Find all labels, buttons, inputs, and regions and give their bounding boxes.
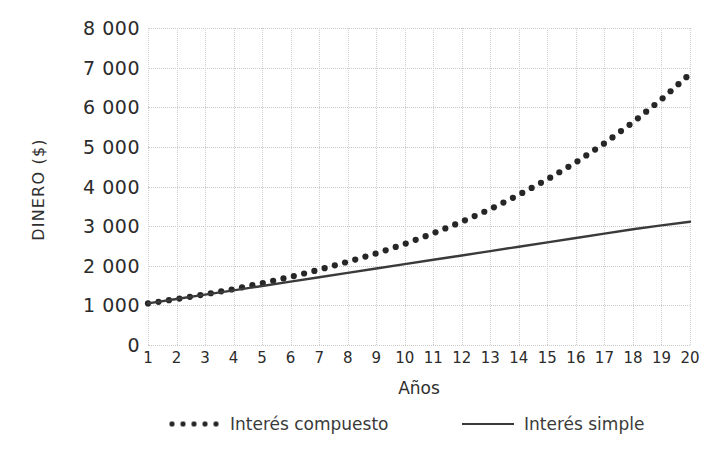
y-axis-tick-label: 6 000 [83,96,140,118]
x-axis-tick-label: 13 [481,349,500,367]
y-axis-tick-label: 2 000 [83,255,140,277]
plot-area [148,28,690,345]
x-axis-tick-label: 3 [200,349,210,367]
chart-legend: Interés compuesto Interés simple [0,414,728,444]
x-axis-tick-label: 16 [566,349,585,367]
x-axis-tick-label: 7 [314,349,324,367]
x-axis-tick-label: 8 [343,349,353,367]
x-axis-tick-label: 10 [395,349,414,367]
legend-item-compound: Interés compuesto [168,414,389,434]
x-axis-title: Años [148,378,690,398]
y-axis-tick-label: 7 000 [83,57,140,79]
y-axis-tick-label: 3 000 [83,215,140,237]
x-axis-tick-label: 5 [257,349,267,367]
x-axis-tick-label: 1 [143,349,153,367]
x-axis-tick-label: 2 [172,349,182,367]
series-simple-interest [148,222,690,304]
x-axis-tick-label: 12 [452,349,471,367]
y-axis-tick-label: 1 000 [83,294,140,316]
x-axis-tick-label: 11 [424,349,443,367]
legend-label-simple: Interés simple [524,414,644,434]
y-axis-tick-label: 0 [127,334,140,356]
solid-line-marker-icon [462,423,514,425]
legend-label-compound: Interés compuesto [230,414,389,434]
y-axis-tick-label: 4 000 [83,176,140,198]
chart-container: DINERO ($) 01 0002 0003 0004 0005 0006 0… [0,0,728,455]
legend-item-simple: Interés simple [462,414,644,434]
x-axis-tick-label: 20 [680,349,699,367]
x-axis-tick-label: 18 [623,349,642,367]
y-axis-tick-labels: 01 0002 0003 0004 0005 0006 0007 0008 00… [40,0,140,455]
x-axis-tick-label: 15 [538,349,557,367]
y-axis-tick-label: 5 000 [83,136,140,158]
gridline-horizontal [148,345,690,346]
series-layer [148,28,690,345]
x-axis-tick-label: 4 [229,349,239,367]
x-axis-tick-label: 6 [286,349,296,367]
dotted-line-marker-icon [168,421,220,427]
x-axis-tick-label: 14 [509,349,528,367]
x-axis-tick-label: 17 [595,349,614,367]
gridline-vertical [690,28,691,345]
series-compound-interest [145,74,690,306]
x-axis-tick-labels: 1234567891011121314151617181920 [148,349,690,373]
x-axis-tick-label: 9 [371,349,381,367]
y-axis-tick-label: 8 000 [83,17,140,39]
x-axis-tick-label: 19 [652,349,671,367]
